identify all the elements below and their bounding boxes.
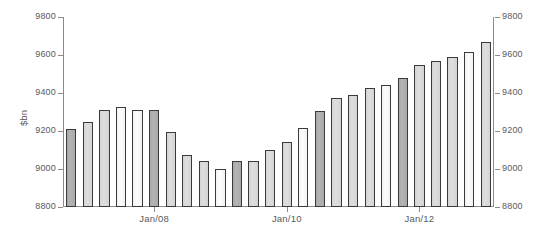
bar: [83, 122, 93, 207]
bar: [398, 78, 408, 207]
y-tick-label-right: 8800: [502, 201, 523, 211]
bar: [149, 110, 159, 207]
bar: [315, 111, 325, 207]
y-tick-mark-right: [495, 55, 500, 56]
bar: [232, 161, 242, 207]
bar: [248, 161, 258, 207]
bar: [132, 110, 142, 207]
bar: [414, 65, 424, 207]
y-tick-label-right: 9800: [502, 11, 523, 21]
bar: [182, 155, 192, 207]
y-tick-label-left: 9800: [22, 11, 56, 21]
y-tick-mark-right: [495, 93, 500, 94]
x-tick-label: Jan/08: [124, 213, 184, 224]
bar: [381, 85, 391, 207]
y-tick-mark-right: [495, 207, 500, 208]
bar: [365, 88, 375, 207]
bar: [215, 169, 225, 207]
bar: [99, 110, 109, 207]
x-tick-label: Jan/10: [257, 213, 317, 224]
bar: [116, 107, 126, 207]
y-tick-label-right: 9000: [502, 163, 523, 173]
y-tick-label-right: 9600: [502, 49, 523, 59]
bar: [447, 57, 457, 207]
bar: [166, 132, 176, 207]
y-tick-mark-left: [58, 207, 63, 208]
x-tick-label: Jan/12: [389, 213, 449, 224]
y-tick-label-left: 9000: [22, 163, 56, 173]
y-tick-mark-right: [495, 17, 500, 18]
bar: [66, 129, 76, 207]
plot-area: [63, 17, 494, 207]
bar: [265, 150, 275, 207]
y-tick-mark-right: [495, 169, 500, 170]
bar: [481, 42, 491, 207]
bar: [331, 98, 341, 207]
y-tick-mark-right: [495, 131, 500, 132]
y-tick-label-left: 8800: [22, 201, 56, 211]
bar: [348, 95, 358, 207]
bar: [298, 128, 308, 207]
y-tick-label-left: 9600: [22, 49, 56, 59]
y-tick-label-left: 9200: [22, 125, 56, 135]
y-tick-label-right: 9200: [502, 125, 523, 135]
bar: [431, 61, 441, 207]
bar: [464, 52, 474, 207]
bar: [282, 142, 292, 207]
y-tick-label-left: 9400: [22, 87, 56, 97]
y-tick-label-right: 9400: [502, 87, 523, 97]
bar-chart: $bn 880090009200940096009800 88009000920…: [0, 0, 542, 243]
bar: [199, 161, 209, 207]
